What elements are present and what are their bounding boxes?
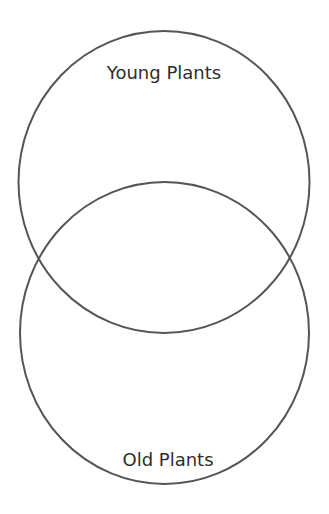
venn-diagram: Young Plants Old Plants: [0, 0, 329, 514]
old-plants-label: Old Plants: [122, 449, 213, 470]
young-plants-label: Young Plants: [106, 62, 221, 83]
